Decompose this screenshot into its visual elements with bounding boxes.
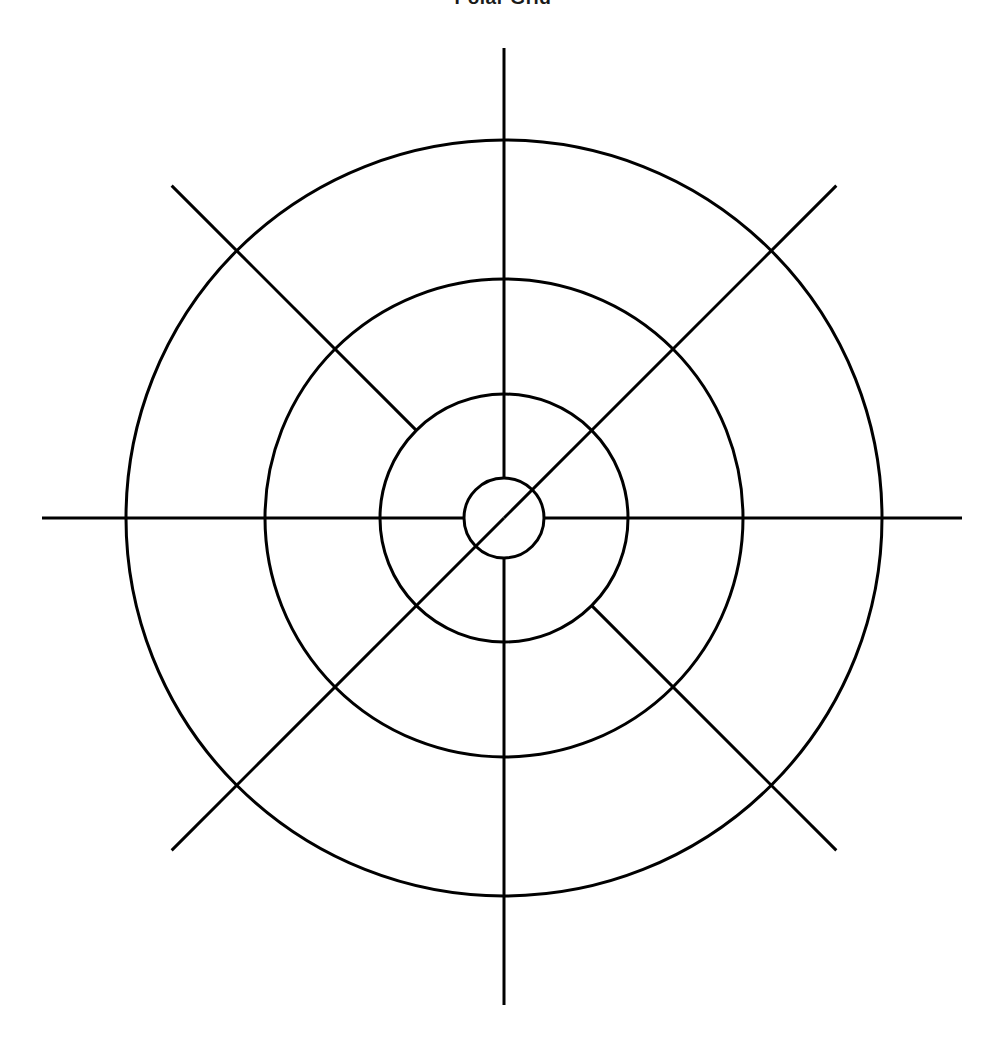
spoke-southwest [172,518,504,850]
spoke-northeast [504,186,836,518]
page-root: Polar Grid [0,0,1006,1056]
polar-grid-diagram [0,0,1006,1056]
spokes-group [42,48,962,1005]
spoke-northwest [172,186,417,431]
spoke-southeast [592,606,837,851]
